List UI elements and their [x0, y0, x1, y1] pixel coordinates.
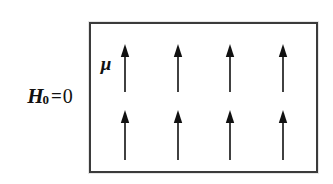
- sample-box: [89, 22, 318, 173]
- equals-sign: =: [51, 85, 62, 107]
- figure-canvas: H0=0 μ: [0, 0, 333, 184]
- moment-symbol-label: μ: [96, 52, 116, 76]
- field-value: 0: [63, 85, 73, 108]
- field-symbol: H: [27, 84, 43, 109]
- field-subscript: 0: [43, 92, 50, 108]
- applied-field-label: H0=0: [14, 83, 86, 109]
